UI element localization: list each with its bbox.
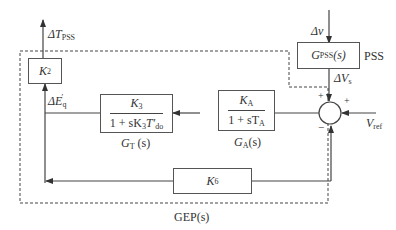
gpss-sub: PSS bbox=[320, 51, 333, 60]
k6-gain: K bbox=[206, 174, 214, 189]
ga-num-sub: A bbox=[248, 99, 254, 108]
gep-label: GEP(s) bbox=[174, 211, 209, 223]
ga-block: KA 1 + sTA bbox=[218, 90, 275, 131]
v-ref-label: Vref bbox=[366, 117, 382, 131]
gpss-g: G bbox=[311, 48, 320, 63]
ga-den-sub: A bbox=[259, 119, 265, 128]
gt-den: 1 + sK bbox=[110, 116, 142, 130]
ga-den: 1 + sT bbox=[228, 113, 259, 127]
sum-sign-bottom: − bbox=[318, 122, 324, 133]
gt-den-t: T′ bbox=[146, 116, 155, 130]
ga-caption: GA(s) bbox=[234, 136, 261, 150]
gt-num: K bbox=[130, 96, 138, 110]
sum-sign-top: + bbox=[318, 91, 324, 101]
k6-block: K6 bbox=[173, 168, 252, 194]
ga-num: K bbox=[240, 93, 248, 107]
k2-sub: 2 bbox=[47, 67, 51, 76]
delta-eq-label: ΔEq′ bbox=[48, 94, 63, 109]
gpss-block: GPSS(s) bbox=[297, 42, 360, 69]
delta-vs-label: ΔVs bbox=[334, 72, 352, 86]
delta-v-label: Δv bbox=[311, 25, 323, 37]
pss-label: PSS bbox=[364, 50, 384, 62]
k2-block: K2 bbox=[28, 58, 62, 84]
gt-block: K3 1 + sK3T′do bbox=[100, 94, 173, 133]
gt-den-t-sub: do bbox=[155, 122, 163, 131]
gt-caption: GT (s) bbox=[121, 137, 150, 151]
gt-num-sub: 3 bbox=[139, 102, 143, 111]
sum-sign-right: + bbox=[344, 96, 350, 106]
gpss-arg: (s) bbox=[333, 48, 346, 63]
delta-t-pss-label: ΔTPSS bbox=[48, 28, 75, 42]
k6-sub: 6 bbox=[215, 177, 219, 186]
k2-gain: K bbox=[39, 64, 47, 79]
